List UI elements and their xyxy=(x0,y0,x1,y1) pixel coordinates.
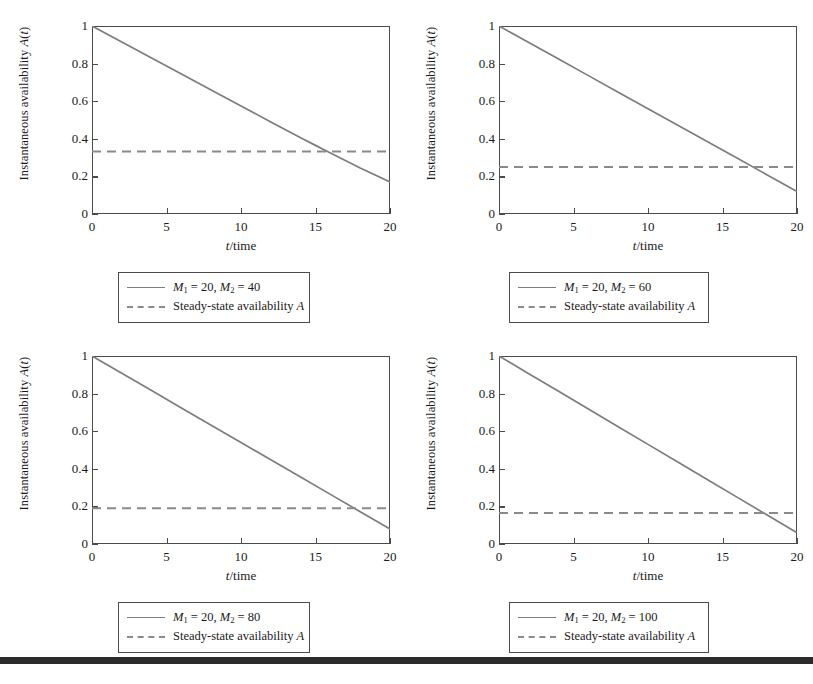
y-tick-label: 0.4 xyxy=(447,461,495,477)
legend-entry-steady-state: Steady-state availability A xyxy=(127,297,301,316)
x-tick-label: 0 xyxy=(72,549,112,565)
legend-solid-line-icon xyxy=(127,612,165,624)
figure-grid: Instantaneous availability A(t)00.20.40.… xyxy=(0,0,813,650)
x-tick-labels: 05101520 xyxy=(92,546,390,570)
x-tick-mark xyxy=(797,538,798,544)
y-tick-label: 1 xyxy=(40,348,88,364)
x-tick-mark xyxy=(797,208,798,214)
legend-dashed-line-icon xyxy=(127,301,165,313)
x-axis-label: t/time xyxy=(92,238,390,254)
x-tick-label: 15 xyxy=(703,219,743,235)
x-tick-label: 20 xyxy=(370,549,410,565)
x-tick-label: 15 xyxy=(703,549,743,565)
plot-area: Instantaneous availability A(t)00.20.40.… xyxy=(0,330,406,598)
y-tick-label: 0.2 xyxy=(40,498,88,514)
y-tick-label: 0.8 xyxy=(447,386,495,402)
series-canvas xyxy=(92,26,390,214)
legend-entry-steady-state: Steady-state availability A xyxy=(127,627,301,646)
y-tick-labels: 00.20.40.60.81 xyxy=(445,356,495,544)
legend-steady-state-label: Steady-state availability A xyxy=(173,629,304,644)
x-tick-label: 5 xyxy=(147,219,187,235)
series-canvas xyxy=(499,26,797,214)
y-tick-label: 0.2 xyxy=(40,168,88,184)
y-axis-label: Instantaneous availability A(t) xyxy=(424,336,439,532)
x-tick-label: 0 xyxy=(479,219,519,235)
y-tick-label: 1 xyxy=(40,18,88,34)
y-axis-label: Instantaneous availability A(t) xyxy=(424,6,439,202)
legend-dashed-line-icon xyxy=(518,631,556,643)
x-axis-label: t/time xyxy=(92,568,390,584)
legend: M1 = 20, M2 = 40Steady-state availabilit… xyxy=(118,272,310,323)
panel-bottom-right: Instantaneous availability A(t)00.20.40.… xyxy=(407,330,813,655)
y-tick-label: 0.6 xyxy=(447,423,495,439)
plot-area: Instantaneous availability A(t)00.20.40.… xyxy=(407,330,813,598)
legend: M1 = 20, M2 = 60Steady-state availabilit… xyxy=(509,272,709,323)
availability-curve xyxy=(499,26,797,191)
y-tick-labels: 00.20.40.60.81 xyxy=(38,26,88,214)
legend-series-label: M1 = 20, M2 = 40 xyxy=(173,280,260,295)
legend-entry-steady-state: Steady-state availability A xyxy=(518,297,700,316)
legend-dashed-line-icon xyxy=(127,631,165,643)
availability-curve xyxy=(499,356,797,533)
legend-steady-state-label: Steady-state availability A xyxy=(564,629,695,644)
series-canvas xyxy=(92,356,390,544)
x-tick-label: 10 xyxy=(628,219,668,235)
x-tick-label: 0 xyxy=(72,219,112,235)
y-tick-label: 1 xyxy=(447,348,495,364)
x-tick-label: 5 xyxy=(147,549,187,565)
legend-steady-state-label: Steady-state availability A xyxy=(564,299,695,314)
y-tick-label: 0.6 xyxy=(40,93,88,109)
availability-curve xyxy=(92,356,390,529)
panel-bottom-left: Instantaneous availability A(t)00.20.40.… xyxy=(0,330,406,655)
legend-solid-line-icon xyxy=(518,612,556,624)
x-tick-label: 10 xyxy=(221,219,261,235)
availability-curve xyxy=(92,26,390,182)
legend-series-label: M1 = 20, M2 = 80 xyxy=(173,610,260,625)
plot-area: Instantaneous availability A(t)00.20.40.… xyxy=(407,0,813,268)
y-axis-label: Instantaneous availability A(t) xyxy=(17,6,32,202)
legend-entry-series: M1 = 20, M2 = 80 xyxy=(127,608,301,627)
y-tick-labels: 00.20.40.60.81 xyxy=(445,26,495,214)
x-tick-mark xyxy=(390,538,391,544)
legend-entry-steady-state: Steady-state availability A xyxy=(518,627,700,646)
legend-entry-series: M1 = 20, M2 = 100 xyxy=(518,608,700,627)
x-tick-label: 5 xyxy=(554,219,594,235)
legend-entry-series: M1 = 20, M2 = 60 xyxy=(518,278,700,297)
x-tick-labels: 05101520 xyxy=(499,546,797,570)
panel-top-left: Instantaneous availability A(t)00.20.40.… xyxy=(0,0,406,325)
x-tick-label: 15 xyxy=(296,549,336,565)
y-tick-label: 0.8 xyxy=(40,56,88,72)
y-tick-label: 0.4 xyxy=(40,461,88,477)
x-tick-label: 15 xyxy=(296,219,336,235)
legend-steady-state-label: Steady-state availability A xyxy=(173,299,304,314)
x-tick-label: 5 xyxy=(554,549,594,565)
x-tick-label: 10 xyxy=(221,549,261,565)
y-tick-label: 0.8 xyxy=(40,386,88,402)
x-axis-label: t/time xyxy=(499,568,797,584)
x-tick-mark xyxy=(390,208,391,214)
y-tick-labels: 00.20.40.60.81 xyxy=(38,356,88,544)
y-tick-label: 0.6 xyxy=(447,93,495,109)
bottom-horizontal-rule xyxy=(0,657,813,664)
y-tick-label: 0.2 xyxy=(447,168,495,184)
y-tick-label: 0.6 xyxy=(40,423,88,439)
y-axis-label: Instantaneous availability A(t) xyxy=(17,336,32,532)
legend-series-label: M1 = 20, M2 = 60 xyxy=(564,280,651,295)
legend-series-label: M1 = 20, M2 = 100 xyxy=(564,610,657,625)
x-tick-label: 0 xyxy=(479,549,519,565)
x-tick-label: 20 xyxy=(777,549,813,565)
x-tick-labels: 05101520 xyxy=(92,216,390,240)
x-axis-label: t/time xyxy=(499,238,797,254)
plot-area: Instantaneous availability A(t)00.20.40.… xyxy=(0,0,406,268)
x-tick-labels: 05101520 xyxy=(499,216,797,240)
legend-dashed-line-icon xyxy=(518,301,556,313)
legend: M1 = 20, M2 = 80Steady-state availabilit… xyxy=(118,602,310,653)
y-tick-label: 0.4 xyxy=(40,131,88,147)
legend: M1 = 20, M2 = 100Steady-state availabili… xyxy=(509,602,709,653)
y-tick-label: 1 xyxy=(447,18,495,34)
y-tick-label: 0.8 xyxy=(447,56,495,72)
legend-solid-line-icon xyxy=(518,282,556,294)
series-canvas xyxy=(499,356,797,544)
legend-entry-series: M1 = 20, M2 = 40 xyxy=(127,278,301,297)
x-tick-label: 20 xyxy=(370,219,410,235)
